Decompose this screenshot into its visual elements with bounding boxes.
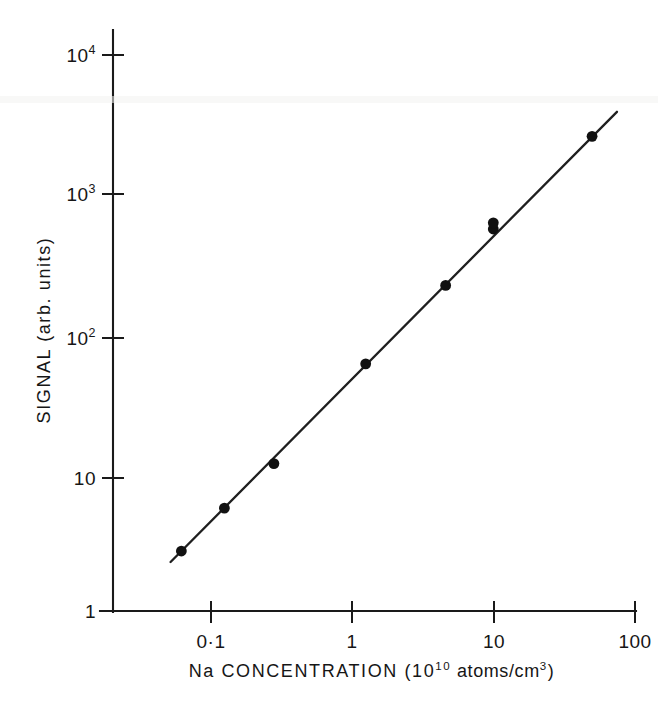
x-ticklabel-10: 10 — [483, 631, 505, 652]
y-ticklabel-1: 1 — [85, 601, 96, 622]
y-axis-tick-labels: 104 103 102 10 1 — [66, 43, 96, 622]
paper-smudge — [0, 96, 658, 103]
chart-canvas: 104 103 102 10 1 0·1 1 10 100 N — [0, 0, 658, 702]
x-ticklabel-1: 1 — [346, 631, 357, 652]
y-ticklabel-1000: 103 — [66, 182, 96, 205]
x-axis-tick-labels: 0·1 1 10 100 — [197, 631, 652, 652]
x-ticklabel-0.1: 0·1 — [197, 631, 226, 652]
x-ticklabel-100: 100 — [618, 631, 651, 652]
data-point-marker — [440, 280, 451, 291]
axis-frame — [100, 30, 636, 612]
fit-line — [171, 112, 617, 562]
data-series-layer — [171, 112, 617, 562]
data-point-marker — [268, 458, 279, 469]
data-point-marker — [488, 217, 499, 228]
data-point-marker — [176, 546, 187, 557]
data-point-marker — [219, 503, 230, 514]
data-point-marker — [587, 131, 598, 142]
y-ticklabel-100: 102 — [66, 326, 96, 349]
data-point-marker — [360, 358, 371, 369]
figure-log-log-calibration-plot: 104 103 102 10 1 0·1 1 10 100 N — [0, 0, 658, 702]
y-ticklabel-10000: 104 — [66, 43, 96, 66]
x-axis-title: Na CONCENTRATION (1010 atoms/cm3) — [189, 660, 556, 681]
y-axis-title: SIGNAL (arb. units) — [34, 237, 54, 424]
y-ticklabel-10: 10 — [74, 468, 96, 489]
